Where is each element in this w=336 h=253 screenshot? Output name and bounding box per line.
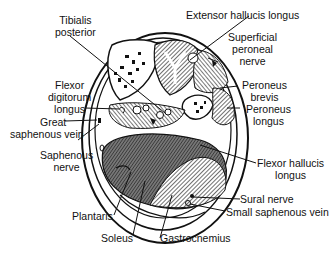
label-plantaris: Plantaris — [72, 210, 113, 222]
label-peroneus-longus: Peroneus longus — [246, 103, 291, 127]
label-superficial-peroneal-nerve: Superficial peroneal nerve — [228, 31, 277, 67]
label-extensor-hallucis-longus: Extensor hallucis longus — [186, 9, 299, 21]
label-great-saphenous-vein: Great saphenous vein — [10, 116, 84, 140]
label-saphenous-nerve: Saphenous nerve — [40, 149, 93, 173]
label-flexor-hallucis-longus: Flexor hallucis longus — [257, 157, 324, 181]
label-small-saphenous-vein: Small saphenous vein — [226, 206, 329, 218]
label-flexor-digitorum-longus: Flexor digitorum longus — [48, 79, 91, 115]
leg-cross-section-diagram: Tibialis posterior Extensor hallucis lon… — [0, 0, 336, 253]
label-gastrocnemius: Gastrocnemius — [160, 232, 231, 244]
label-tibialis-posterior: Tibialis posterior — [55, 14, 96, 38]
label-soleus: Soleus — [101, 232, 133, 244]
label-peroneus-brevis: Peroneus brevis — [242, 79, 287, 103]
label-sural-nerve: Sural nerve — [240, 193, 294, 205]
